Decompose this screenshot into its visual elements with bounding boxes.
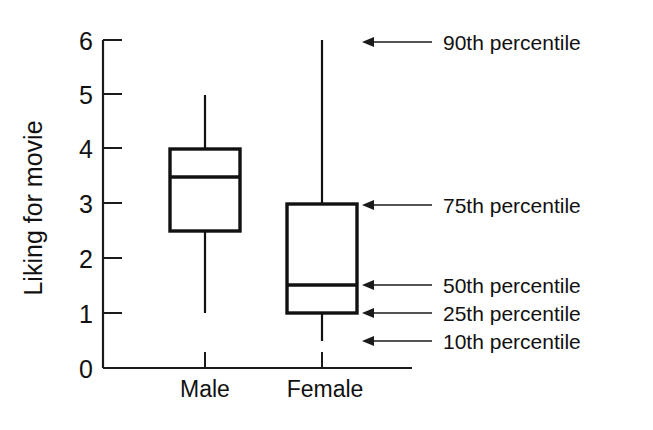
y-tick-label-6: 6 xyxy=(79,27,93,55)
arrow-head-75th xyxy=(362,200,374,210)
male-box xyxy=(170,149,240,231)
annotation-label-90th: 90th percentile xyxy=(443,31,581,54)
arrow-head-50th xyxy=(362,280,374,290)
annotation-label-25th: 25th percentile xyxy=(443,302,581,325)
y-tick-label-4: 4 xyxy=(79,135,93,163)
annotation-50th: 50th percentile xyxy=(362,274,581,297)
female-box xyxy=(287,204,357,313)
annotation-label-75th: 75th percentile xyxy=(443,194,581,217)
arrow-head-10th xyxy=(362,336,374,346)
boxplot-figure: 6 5 4 3 2 1 0 Liking for movie Male Fema… xyxy=(0,0,653,430)
y-tick-label-0: 0 xyxy=(79,355,93,383)
y-tick-marks xyxy=(103,40,122,368)
y-tick-label-3: 3 xyxy=(79,190,93,218)
boxplot-female xyxy=(287,40,357,341)
boxplot-chart: 6 5 4 3 2 1 0 Liking for movie Male Fema… xyxy=(0,0,653,430)
y-tick-label-5: 5 xyxy=(79,81,93,109)
x-label-male: Male xyxy=(180,376,230,402)
y-tick-labels: 6 5 4 3 2 1 0 xyxy=(79,27,93,383)
y-tick-label-1: 1 xyxy=(79,300,93,328)
x-tick-labels: Male Female xyxy=(180,376,363,402)
arrow-head-25th xyxy=(362,308,374,318)
annotation-25th: 25th percentile xyxy=(362,302,581,325)
annotation-90th: 90th percentile xyxy=(362,31,581,54)
annotation-75th: 75th percentile xyxy=(362,194,581,217)
y-tick-label-2: 2 xyxy=(79,245,93,273)
annotation-10th: 10th percentile xyxy=(362,330,581,353)
x-tick-marks xyxy=(205,352,322,368)
arrow-head-90th xyxy=(362,37,374,47)
y-axis-title: Liking for movie xyxy=(19,120,47,295)
boxplot-male xyxy=(170,95,240,313)
annotation-label-50th: 50th percentile xyxy=(443,274,581,297)
x-label-female: Female xyxy=(287,376,364,402)
annotation-label-10th: 10th percentile xyxy=(443,330,581,353)
